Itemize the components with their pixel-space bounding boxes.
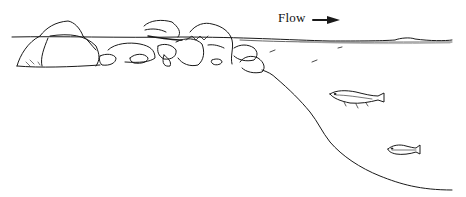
fish-lower	[388, 145, 420, 154]
streambed-slope	[276, 78, 452, 190]
arrow-right-icon	[313, 16, 340, 24]
boulder-bank	[17, 20, 276, 78]
stream-illustration: Flow	[0, 0, 466, 197]
illustration-canvas	[0, 0, 466, 197]
fish-upper	[330, 91, 384, 108]
